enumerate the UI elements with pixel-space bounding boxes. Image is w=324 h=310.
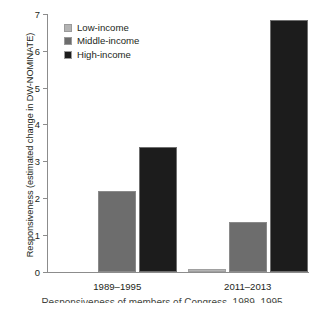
y-tick-label: 2: [35, 193, 40, 204]
legend-item-high-income: High-income: [64, 48, 139, 62]
y-tick-mark: [43, 14, 47, 15]
legend-swatch-middle-income-icon: [64, 37, 72, 45]
y-tick-label: 4: [35, 119, 40, 130]
y-tick-label: 7: [35, 9, 40, 20]
y-tick-mark: [43, 124, 47, 125]
y-tick-mark: [43, 88, 47, 89]
y-tick-mark: [43, 51, 47, 52]
y-tick-mark: [43, 161, 47, 162]
x-axis-label-2011-2013: 2011–2013: [224, 281, 271, 292]
y-tick-label: 1: [35, 229, 40, 240]
legend-swatch-low-income-icon: [64, 24, 72, 32]
bar-chart: Responsiveness (estimated change in DW-N…: [0, 0, 324, 310]
bar-1989-1995-high-income: [139, 147, 177, 272]
y-tick-label: 3: [35, 156, 40, 167]
legend-label-low-income: Low-income: [77, 23, 129, 33]
y-axis-title: Responsiveness (estimated change in DW-N…: [25, 11, 35, 279]
legend-label-middle-income: Middle-income: [77, 36, 139, 46]
y-tick-label: 5: [35, 82, 40, 93]
legend-label-high-income: High-income: [77, 50, 131, 60]
x-axis-line: [47, 272, 309, 273]
legend-swatch-high-income-icon: [64, 51, 72, 59]
y-tick-label: 0: [35, 266, 40, 277]
bar-2011-2013-high-income: [270, 20, 308, 272]
bar-2011-2013-middle-income: [229, 222, 267, 272]
legend-item-low-income: Low-income: [64, 21, 139, 35]
legend-item-middle-income: Middle-income: [64, 35, 139, 49]
legend: Low-income Middle-income High-income: [64, 21, 139, 62]
y-tick-mark: [43, 235, 47, 236]
y-tick-mark: [43, 198, 47, 199]
y-tick-label: 6: [35, 45, 40, 56]
y-tick-mark: [43, 272, 47, 273]
bar-1989-1995-middle-income: [98, 191, 136, 272]
x-axis-label-1989-1995: 1989–1995: [93, 281, 141, 292]
bar-2011-2013-low-income: [188, 269, 226, 272]
caption-fragment: Responsiveness of members of Congress, 1…: [0, 296, 324, 310]
